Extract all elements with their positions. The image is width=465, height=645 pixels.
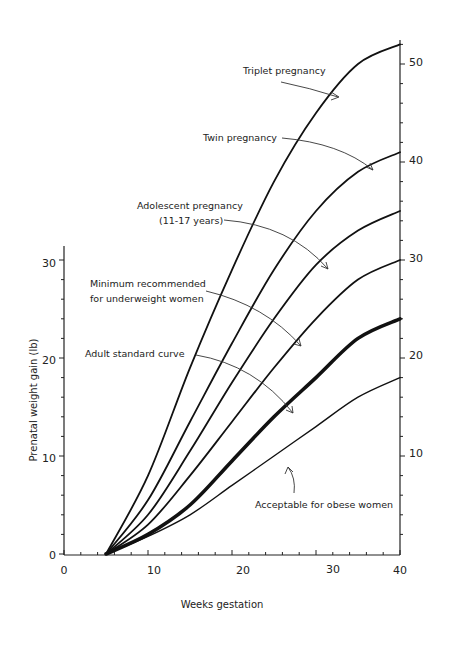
y-left-tick-20: 20 — [42, 354, 56, 367]
x-tick-10: 10 — [147, 564, 161, 577]
annotation-twin: Twin pregnancy — [202, 132, 277, 143]
annotation-adult: Adult standard curve — [85, 348, 185, 359]
arrow-underweight — [206, 291, 301, 346]
arrow-triplet — [281, 82, 338, 97]
annotation-obese: Acceptable for obese women — [255, 499, 393, 510]
x-tick-30: 30 — [326, 563, 340, 576]
arrow-obese — [288, 467, 294, 493]
x-tick-labels: 0 10 20 30 40 — [61, 563, 408, 577]
x-tick-0: 0 — [61, 564, 68, 577]
x-axis-title: Weeks gestation — [181, 599, 264, 610]
weight-gain-chart: 0 10 20 30 40 0 10 20 30 10 20 30 40 50 … — [0, 0, 465, 645]
y-right-tick-10: 10 — [409, 447, 423, 460]
annotation-underweight-line1: Minimum recommended — [90, 278, 206, 289]
annotation-underweight-line2: for underweight women — [90, 293, 204, 304]
y-left-tick-0: 0 — [49, 549, 56, 562]
y-right-tick-30: 30 — [409, 252, 423, 265]
y-left-tick-30: 30 — [42, 257, 56, 270]
x-tick-40: 40 — [393, 564, 407, 577]
right-y-tick-labels: 10 20 30 40 50 — [409, 56, 423, 460]
annotation-adolescent-line1: Adolescent pregnancy — [137, 200, 243, 211]
curve-acceptable-for-obese-women — [106, 378, 400, 554]
y-axis-title: Prenatal weight gain (lb) — [28, 338, 39, 461]
x-tick-20: 20 — [236, 564, 250, 577]
annotation-adolescent-line2: (11-17 years) — [159, 215, 223, 226]
y-right-tick-40: 40 — [409, 154, 423, 167]
annotation-triplet: Triplet pregnancy — [242, 65, 326, 76]
left-y-tick-labels: 0 10 20 30 — [42, 257, 56, 562]
arrow-adolescent — [224, 220, 328, 269]
y-left-tick-10: 10 — [42, 452, 56, 465]
y-right-tick-50: 50 — [409, 56, 423, 69]
y-right-tick-20: 20 — [409, 349, 423, 362]
